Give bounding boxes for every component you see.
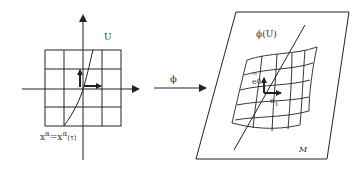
- image-patch-grid: [232, 47, 317, 131]
- map-label-phi: ϕ: [170, 74, 177, 84]
- diagram-svg: [0, 0, 363, 173]
- curve-x-tau: [64, 50, 93, 126]
- diagram-canvas: U xα=xα(τ) ϕ ϕ(U) M →e0 e1: [0, 0, 363, 173]
- vector-e0-sub: 0: [257, 78, 261, 86]
- vector-e0-label: →e0: [252, 78, 261, 86]
- vector-e1-sub: 1: [275, 100, 279, 107]
- curve-equation-label: xα=xα(τ): [40, 131, 77, 142]
- manifold-label: M: [299, 146, 307, 154]
- vector-e0-arrow: →: [252, 71, 257, 77]
- patch-label: ϕ(U): [256, 30, 277, 39]
- image-curve: [234, 25, 305, 150]
- vector-e1-label: e1: [270, 97, 279, 107]
- region-label-u: U: [104, 33, 112, 42]
- curve-label-rhs: (τ): [67, 134, 76, 142]
- curve-label-eq: =x: [50, 132, 63, 142]
